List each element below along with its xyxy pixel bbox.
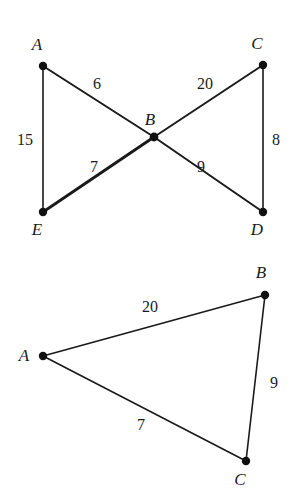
vertex-label-C: C xyxy=(251,34,263,53)
vertex-label-A-triangle: A xyxy=(18,346,30,365)
vertex-dot-D xyxy=(259,208,267,216)
edge-length-C-B: 20 xyxy=(197,75,213,92)
edge-length-C-D: 8 xyxy=(272,131,280,148)
geometry-figure-canvas: A C B E D 15 6 20 7 9 8 A B C xyxy=(0,0,292,502)
bowtie-figure: A C B E D 15 6 20 7 9 8 xyxy=(17,34,280,239)
triangle-figure: A B C 20 9 7 xyxy=(18,263,278,489)
vertex-dot-A xyxy=(39,62,47,70)
vertex-label-C-triangle: C xyxy=(234,470,246,489)
edge-length-A-C-triangle: 7 xyxy=(137,416,145,433)
vertex-label-E: E xyxy=(31,220,43,239)
edge-D-B xyxy=(154,137,263,212)
edge-B-C-triangle xyxy=(246,295,265,461)
vertex-label-B: B xyxy=(145,110,156,129)
edge-length-A-E: 15 xyxy=(17,131,33,148)
edge-length-B-C-triangle: 9 xyxy=(270,374,278,391)
diagram-page: A C B E D 15 6 20 7 9 8 A B C xyxy=(0,0,292,502)
vertex-dot-B-triangle xyxy=(261,291,269,299)
edge-length-D-B: 9 xyxy=(197,158,205,175)
edge-length-A-B-triangle: 20 xyxy=(142,298,158,315)
edge-A-C-triangle xyxy=(43,356,246,461)
edge-length-A-B: 6 xyxy=(93,75,101,92)
edge-E-B xyxy=(43,137,154,212)
vertex-dot-B xyxy=(150,133,159,142)
vertex-dot-C-triangle xyxy=(242,457,250,465)
vertex-label-D: D xyxy=(250,220,264,239)
vertex-label-B-triangle: B xyxy=(256,263,267,282)
vertex-dot-C xyxy=(259,61,267,69)
vertex-dot-A-triangle xyxy=(39,352,47,360)
vertex-dot-E xyxy=(39,208,47,216)
vertex-label-A: A xyxy=(31,35,43,54)
edge-length-E-B: 7 xyxy=(90,158,98,175)
